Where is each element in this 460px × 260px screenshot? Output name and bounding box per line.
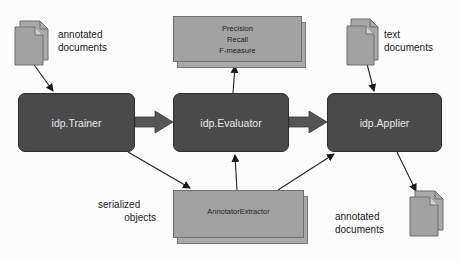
node-applier-label: idp.Applier <box>360 117 410 129</box>
thick-arrow-evaluator-to-applier <box>289 111 327 133</box>
label-line: text <box>384 28 433 41</box>
node-evaluator: idp.Evaluator <box>173 93 289 152</box>
label-line: serialized <box>98 198 156 211</box>
annotated-documents-output-label: annotated documents <box>335 210 384 236</box>
annotated-documents-input-icon <box>14 20 54 66</box>
text-documents-icon <box>346 18 386 66</box>
node-evaluator-label: idp.Evaluator <box>200 117 261 129</box>
label-line: annotated <box>58 28 107 41</box>
arrow-docs-to-trainer <box>32 62 53 91</box>
annotated-documents-output-icon <box>409 190 449 238</box>
metric-f-measure: F-measure <box>219 45 255 56</box>
arrow-applier-to-docs <box>397 152 416 191</box>
thick-arrow-trainer-to-evaluator <box>135 111 173 133</box>
extractor-box: AnnotatorExtractor <box>173 190 304 238</box>
label-line: objects <box>98 211 156 224</box>
metrics-box: Precision Recall F-measure <box>173 16 302 62</box>
label-line: documents <box>384 41 433 54</box>
node-trainer: idp.Trainer <box>18 93 135 152</box>
label-line: documents <box>58 41 107 54</box>
arrow-textdocs-to-applier <box>367 64 374 91</box>
node-trainer-label: idp.Trainer <box>52 117 102 129</box>
metric-recall: Recall <box>227 34 248 45</box>
arrow-trainer-to-extractor <box>128 152 190 188</box>
annotated-documents-input-label: annotated documents <box>58 28 107 54</box>
metrics-box-front: Precision Recall F-measure <box>173 16 302 62</box>
extractor-box-front: AnnotatorExtractor <box>173 190 304 238</box>
arrow-extractor-to-applier <box>278 154 334 190</box>
text-documents-label: text documents <box>384 28 433 54</box>
arrow-extractor-to-evaluator <box>235 155 237 190</box>
metric-precision: Precision <box>222 23 253 34</box>
idp-pipeline-diagram: annotated documents text documents Preci… <box>0 0 460 260</box>
extractor-label: AnnotatorExtractor <box>207 206 270 217</box>
node-applier: idp.Applier <box>327 93 442 152</box>
label-line: documents <box>335 223 384 236</box>
label-line: annotated <box>335 210 384 223</box>
serialized-objects-label: serialized objects <box>98 198 156 224</box>
arrow-evaluator-to-metrics <box>233 66 235 93</box>
